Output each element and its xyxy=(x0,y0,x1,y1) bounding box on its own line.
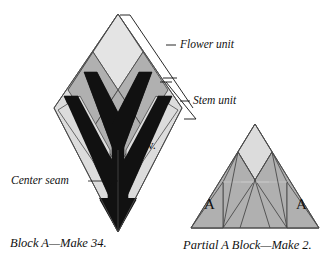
block-a-diamond xyxy=(54,14,182,232)
piece-label-a-right: A xyxy=(296,196,307,213)
center-seam-label: Center seam xyxy=(11,174,69,186)
piece-label-a-left: A xyxy=(204,196,215,213)
piece-label-x-left: x xyxy=(80,128,94,140)
caption-partial-a: Partial A Block—Make 2. xyxy=(183,238,312,253)
quilt-diagram-svg xyxy=(0,0,329,262)
stem-unit-label: Stem unit xyxy=(193,94,236,106)
flower-unit-label: Flower unit xyxy=(180,38,234,50)
diagram-canvas: Flower unit Stem unit Center seam x x re… xyxy=(0,0,329,262)
piece-label-x-rev: rev. xyxy=(134,139,160,151)
caption-block-a: Block A—Make 34. xyxy=(10,236,107,251)
